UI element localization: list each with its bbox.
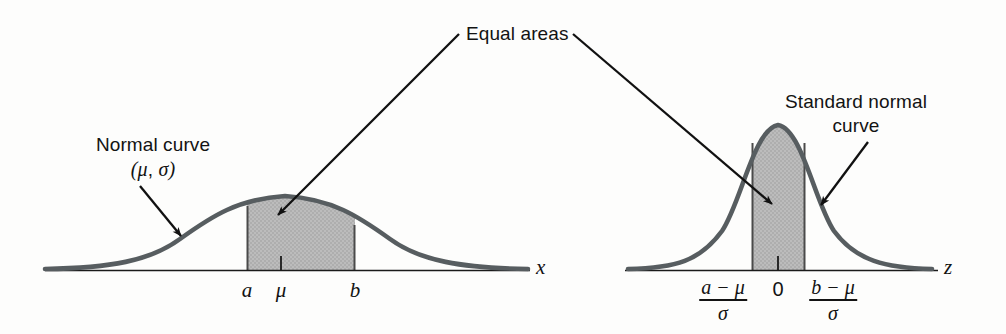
standard-normal-panel	[625, 125, 938, 271]
upper-z-numerator: b − μ	[809, 277, 857, 299]
equal-areas-label: Equal areas	[466, 22, 569, 46]
normal-curve-label-line1: Normal curve	[58, 133, 248, 157]
equal-areas-leader-left	[278, 34, 459, 215]
tick-label-lower-z: a − μ σ	[699, 277, 747, 323]
x-axis-label: x	[536, 255, 545, 280]
tick-label-b: b	[350, 278, 361, 303]
tick-label-zero: 0	[772, 278, 783, 301]
sigma-symbol: σ	[158, 158, 168, 180]
tick-label-upper-z: b − μ σ	[809, 277, 857, 323]
mu-symbol: μ	[138, 158, 148, 180]
upper-z-denominator: σ	[809, 301, 857, 323]
standard-normal-leader-arrow	[821, 142, 868, 205]
standard-normal-shaded-area	[628, 126, 932, 271]
equal-areas-leader-right	[573, 34, 772, 204]
statistics-figure: Normal curve (μ, σ) Equal areas Standard…	[0, 0, 1006, 334]
normal-curve-panel	[45, 196, 530, 271]
tick-label-a: a	[242, 278, 253, 303]
paren-close: )	[168, 158, 175, 180]
standard-normal-label-line1: Standard normal	[760, 90, 952, 114]
paren-open: (	[131, 158, 138, 180]
tick-label-mu: μ	[276, 278, 287, 303]
standard-normal-label: Standard normal curve	[760, 90, 952, 138]
normal-curve-leader-arrow	[140, 186, 181, 236]
comma-separator: ,	[148, 159, 159, 180]
normal-curve-label: Normal curve (μ, σ)	[58, 133, 248, 182]
normal-curve-label-line2: (μ, σ)	[58, 157, 248, 182]
lower-z-denominator: σ	[699, 301, 747, 323]
standard-normal-label-line2: curve	[760, 114, 952, 138]
z-axis-label: z	[944, 255, 952, 280]
lower-z-numerator: a − μ	[699, 277, 747, 299]
